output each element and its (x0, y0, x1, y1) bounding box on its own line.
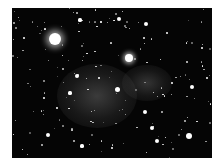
faint-star (89, 21, 91, 23)
faint-star (196, 121, 197, 122)
faint-star (186, 96, 187, 97)
faint-star (89, 144, 90, 145)
faint-star (62, 44, 63, 45)
faint-star (82, 60, 83, 61)
faint-star (41, 30, 42, 31)
faint-star (181, 129, 182, 130)
faint-star (29, 69, 31, 71)
faint-star (125, 27, 126, 28)
faint-star (62, 125, 63, 126)
faint-star (78, 31, 79, 32)
star (206, 77, 208, 79)
star (68, 91, 71, 94)
faint-star (27, 83, 29, 85)
faint-star (13, 39, 15, 41)
faint-star (76, 12, 78, 14)
faint-star (59, 119, 60, 120)
faint-star (134, 58, 136, 60)
faint-star (109, 18, 110, 19)
faint-star (33, 111, 34, 112)
faint-star (43, 114, 44, 115)
faint-star (162, 144, 163, 145)
faint-star (43, 110, 45, 112)
faint-star (44, 28, 46, 30)
faint-star (164, 95, 165, 96)
faint-star (100, 65, 101, 66)
faint-star (202, 44, 203, 45)
star (49, 33, 61, 45)
faint-star (187, 117, 188, 118)
faint-star (94, 51, 96, 53)
star (125, 54, 133, 62)
faint-star (41, 144, 43, 146)
faint-star (203, 9, 204, 10)
faint-star (41, 110, 43, 112)
faint-star (73, 12, 74, 13)
faint-star (135, 89, 137, 91)
faint-star (48, 60, 50, 62)
star (143, 110, 147, 114)
faint-star (129, 28, 130, 29)
star (201, 47, 203, 49)
faint-star (118, 55, 119, 56)
faint-star (62, 55, 63, 56)
faint-star (187, 41, 189, 43)
faint-star (160, 59, 161, 60)
star (23, 37, 25, 39)
star (166, 32, 168, 34)
faint-star (73, 140, 75, 142)
faint-star (71, 129, 72, 130)
faint-star (165, 137, 166, 138)
faint-star (153, 92, 154, 93)
faint-star (209, 122, 211, 124)
faint-star (123, 143, 124, 144)
faint-star (14, 11, 16, 13)
star (186, 133, 192, 139)
faint-star (180, 76, 181, 77)
faint-star (205, 141, 206, 142)
faint-star (27, 154, 28, 155)
faint-star (83, 43, 84, 44)
faint-star (37, 26, 38, 27)
star (144, 22, 148, 26)
faint-star (77, 74, 79, 76)
faint-star (201, 61, 202, 62)
faint-star (18, 17, 19, 18)
faint-star (115, 13, 117, 15)
faint-star (22, 50, 23, 51)
faint-star (19, 20, 20, 21)
faint-star (107, 22, 108, 23)
faint-star (125, 114, 126, 115)
faint-star (209, 48, 211, 50)
faint-star (203, 69, 205, 71)
faint-star (186, 42, 188, 44)
faint-star (186, 61, 188, 63)
faint-star (201, 21, 202, 22)
faint-star (45, 49, 46, 50)
faint-star (101, 151, 102, 152)
faint-star (61, 26, 62, 27)
faint-star (126, 21, 128, 23)
faint-star (158, 136, 159, 137)
faint-star (22, 149, 23, 150)
faint-star (62, 68, 63, 69)
faint-star (13, 22, 15, 24)
faint-star (185, 74, 186, 75)
faint-star (144, 82, 146, 84)
star (155, 139, 159, 143)
faint-star (171, 142, 172, 143)
star (117, 17, 121, 21)
faint-star (189, 79, 190, 80)
star-field-image (12, 8, 212, 158)
faint-star (91, 134, 93, 136)
faint-star (82, 20, 83, 21)
faint-star (13, 134, 14, 135)
faint-star (57, 76, 58, 77)
faint-star (39, 33, 41, 35)
faint-star (103, 122, 104, 123)
faint-star (178, 134, 179, 135)
faint-star (115, 123, 116, 124)
faint-star (74, 73, 75, 74)
faint-star (32, 21, 34, 23)
faint-star (69, 8, 70, 9)
